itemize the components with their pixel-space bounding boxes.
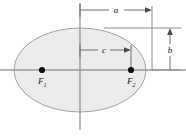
semi-major-axis-label: a xyxy=(114,5,119,15)
focus-right-subscript: 2 xyxy=(133,82,136,88)
semi-minor-axis-label: b xyxy=(168,45,173,55)
focal-distance-label: c xyxy=(102,45,106,55)
ellipse-diagram: a c b F1 F2 xyxy=(0,0,186,138)
b-dimension-arrowhead xyxy=(167,28,173,35)
focus-left-point xyxy=(39,67,45,73)
a-dimension-arrowhead xyxy=(145,7,152,13)
focus-right-point xyxy=(128,67,134,73)
focus-left-subscript: 1 xyxy=(44,82,47,88)
ellipse-figure: a c b F1 F2 xyxy=(0,0,186,138)
